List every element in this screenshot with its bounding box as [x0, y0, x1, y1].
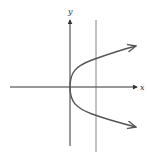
parabola-upper-branch — [70, 46, 136, 87]
parabola-lower-branch — [70, 87, 136, 127]
y-axis-label: y — [67, 7, 73, 16]
x-axis-label: x — [140, 83, 145, 92]
parabola-diagram: x y — [0, 0, 147, 163]
